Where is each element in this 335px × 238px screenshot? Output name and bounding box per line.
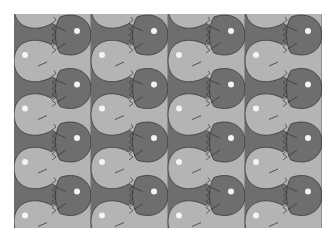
pattern-column: [91, 14, 168, 228]
pattern-column: [168, 14, 245, 228]
pattern-column: [245, 14, 322, 228]
fish-tessellation: [14, 14, 322, 228]
pattern-column: [14, 14, 91, 228]
fish-pattern-graphic: [14, 14, 322, 228]
